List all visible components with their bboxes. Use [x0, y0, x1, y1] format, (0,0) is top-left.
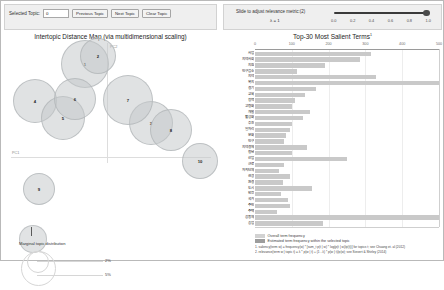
topic-bubble-8[interactable]: 8 — [150, 109, 192, 151]
bar-overall-frequency[interactable] — [255, 204, 290, 208]
bar-term-label[interactable]: 활성화 — [225, 115, 254, 121]
bar-term-label[interactable]: 사업 — [225, 51, 254, 57]
bar-term-label[interactable]: 개발 — [225, 110, 254, 116]
bar-row[interactable]: 활성화 — [225, 115, 443, 121]
bar-row[interactable]: 주민 — [225, 203, 443, 209]
bar-overall-frequency[interactable] — [255, 221, 323, 225]
bar-row[interactable]: 인구 — [225, 139, 443, 145]
bar-overall-frequency[interactable] — [255, 210, 277, 214]
selected-topic-input[interactable]: 0 — [43, 9, 69, 18]
bar-row[interactable]: 환경 — [225, 180, 443, 186]
bar-row[interactable]: 공동체 — [225, 215, 443, 221]
bar-term-label[interactable]: 추진 — [225, 121, 254, 127]
bar-row[interactable]: 복지 — [225, 80, 443, 86]
bar-overall-frequency[interactable] — [255, 98, 295, 102]
bar-row[interactable]: 주택 — [225, 209, 443, 215]
bar-row[interactable]: 고령화 — [225, 104, 443, 110]
bar-row[interactable]: 산업 — [225, 156, 443, 162]
bar-row[interactable]: 정책 — [225, 98, 443, 104]
bar-term-label[interactable]: 인구 — [225, 139, 254, 145]
bar-overall-frequency[interactable] — [255, 128, 290, 132]
previous-topic-button[interactable]: Previous Topic — [72, 9, 108, 18]
slider-track[interactable] — [334, 12, 428, 14]
clear-topic-button[interactable]: Clear Topic — [142, 9, 171, 18]
bar-overall-frequency[interactable] — [255, 122, 292, 126]
bar-row[interactable]: 자치단체 — [225, 168, 443, 174]
topic-bubble-9[interactable]: 9 — [23, 173, 55, 205]
bar-row[interactable]: 근로 — [225, 162, 443, 168]
bar-overall-frequency[interactable] — [255, 151, 292, 155]
bar-term-label[interactable]: 복지 — [225, 80, 254, 86]
bar-term-label[interactable]: 문화 — [225, 133, 254, 139]
bar-overall-frequency[interactable] — [255, 139, 284, 143]
topic-bubble-2[interactable]: 2 — [80, 38, 116, 74]
bar-overall-frequency[interactable] — [255, 198, 288, 202]
bar-overall-frequency[interactable] — [255, 186, 312, 190]
bar-term-label[interactable]: 주민 — [225, 203, 254, 209]
bar-overall-frequency[interactable] — [255, 174, 290, 178]
bar-row[interactable]: 추진 — [225, 121, 443, 127]
next-topic-button[interactable]: Next Topic — [111, 9, 139, 18]
bar-term-label[interactable]: 농업 — [225, 221, 254, 227]
bar-overall-frequency[interactable] — [255, 57, 360, 61]
bar-term-label[interactable]: 지역경제 — [225, 145, 254, 151]
relevance-slider[interactable]: 0.0 0.2 0.4 0.6 0.8 1.0 — [334, 9, 432, 27]
bar-row[interactable]: 지역 — [225, 74, 443, 80]
bar-term-label[interactable]: 관광 — [225, 174, 254, 180]
bar-overall-frequency[interactable] — [255, 145, 307, 149]
bar-term-label[interactable]: 인구감소 — [225, 69, 254, 75]
bar-term-label[interactable]: 교육 — [225, 92, 254, 98]
bar-overall-frequency[interactable] — [255, 110, 310, 114]
bar-row[interactable]: 국가 — [225, 197, 443, 203]
bar-term-label[interactable]: 지역 — [225, 74, 254, 80]
bar-overall-frequency[interactable] — [255, 104, 292, 108]
bar-term-label[interactable]: 고령화 — [225, 104, 254, 110]
bar-overall-frequency[interactable] — [255, 75, 376, 79]
bar-term-label[interactable]: 국가 — [225, 197, 254, 203]
bar-row[interactable]: 인구감소 — [225, 69, 443, 75]
bar-overall-frequency[interactable] — [255, 180, 283, 184]
bar-row[interactable]: 경기 — [225, 86, 443, 92]
bar-overall-frequency[interactable] — [255, 87, 316, 91]
bar-overall-frequency[interactable] — [255, 93, 305, 97]
bar-row[interactable]: 안전 — [225, 191, 443, 197]
bar-overall-frequency[interactable] — [255, 157, 347, 161]
bar-term-label[interactable]: 지원 — [225, 63, 254, 69]
bar-term-label[interactable]: 안전 — [225, 191, 254, 197]
intertopic-distance-map[interactable]: PC2 PC1 12345678910 Marginal topic distr… — [3, 41, 220, 259]
bar-row[interactable]: 문화 — [225, 133, 443, 139]
bar-overall-frequency[interactable] — [255, 63, 325, 67]
bar-term-label[interactable]: 지역사회 — [225, 57, 254, 63]
bar-row[interactable]: 일자리 — [225, 127, 443, 133]
topic-bubble-10[interactable]: 10 — [182, 143, 218, 179]
bar-term-label[interactable]: 도시 — [225, 186, 254, 192]
bar-row[interactable]: 지역사회 — [225, 57, 443, 63]
bar-overall-frequency[interactable] — [255, 169, 279, 173]
bar-row[interactable]: 청년 — [225, 150, 443, 156]
bar-term-label[interactable]: 주택 — [225, 209, 254, 215]
bar-overall-frequency[interactable] — [255, 69, 297, 73]
bar-term-label[interactable]: 청년 — [225, 150, 254, 156]
bar-row[interactable]: 지원 — [225, 63, 443, 69]
bar-term-label[interactable]: 자치단체 — [225, 168, 254, 174]
bar-row[interactable]: 도시 — [225, 186, 443, 192]
bar-row[interactable]: 관광 — [225, 174, 443, 180]
bar-overall-frequency[interactable] — [255, 215, 439, 219]
bar-term-label[interactable]: 공동체 — [225, 215, 254, 221]
bar-overall-frequency[interactable] — [255, 163, 284, 167]
topic-bubble-7[interactable]: 7 — [103, 75, 153, 125]
bar-overall-frequency[interactable] — [255, 81, 439, 85]
bar-overall-frequency[interactable] — [255, 192, 281, 196]
bar-term-label[interactable]: 근로 — [225, 162, 254, 168]
bar-row[interactable]: 개발 — [225, 110, 443, 116]
bar-row[interactable]: 농업 — [225, 221, 443, 227]
bar-term-label[interactable]: 일자리 — [225, 127, 254, 133]
slider-handle[interactable] — [423, 10, 430, 17]
bar-term-label[interactable]: 산업 — [225, 156, 254, 162]
bar-term-label[interactable]: 경기 — [225, 86, 254, 92]
bar-overall-frequency[interactable] — [255, 116, 303, 120]
bar-term-label[interactable]: 정책 — [225, 98, 254, 104]
topic-bubble-6[interactable]: 6 — [54, 78, 96, 120]
bar-term-label[interactable]: 환경 — [225, 180, 254, 186]
bar-row[interactable]: 사업 — [225, 51, 443, 57]
